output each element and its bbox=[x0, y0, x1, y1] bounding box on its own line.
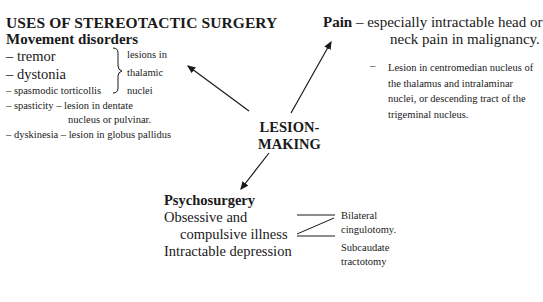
movement-spasticity-1: – spasticity – lesion in dentate bbox=[6, 100, 133, 111]
brace-note-3: nuclei bbox=[127, 85, 153, 96]
pain-heading: Pain bbox=[323, 14, 352, 30]
movement-spasticity-2: nucleus or pulvinar. bbox=[68, 114, 151, 125]
diagram-title: USES OF STEREOTACTIC SURGERY bbox=[6, 14, 277, 32]
brace-note-2: thalamic bbox=[127, 67, 163, 78]
brace-note-1: lesions in bbox=[127, 49, 167, 60]
z-line-diagonal bbox=[297, 218, 334, 234]
pain-desc-2: neck pain in malignancy. bbox=[390, 31, 540, 48]
movement-heading: Movement disorders bbox=[6, 31, 138, 48]
pain-desc-1: especially intractable head or bbox=[367, 14, 542, 30]
pain-line-1: Pain – especially intractable head or bbox=[323, 14, 543, 31]
psy-line-1: Obsessive and bbox=[164, 209, 247, 226]
treatment-tractotomy-2: tractotomy bbox=[341, 256, 387, 267]
treatment-tractotomy-1: Subcaudate bbox=[341, 242, 389, 253]
psy-line-2: compulsive illness bbox=[180, 226, 288, 243]
pain-dash: – bbox=[356, 14, 364, 30]
center-line-1: LESION- bbox=[258, 119, 321, 136]
movement-item-tremor: – tremor bbox=[6, 48, 56, 65]
psy-line-3: Intractable depression bbox=[164, 243, 292, 260]
arrow-to-movement bbox=[188, 66, 249, 111]
center-line-2: MAKING bbox=[258, 136, 321, 153]
movement-dyskinesia: – dyskinesia – lesion in globus pallidus bbox=[6, 129, 171, 140]
arrow-to-pain bbox=[291, 42, 331, 113]
treatment-cingulotomy-1: Bilateral bbox=[341, 210, 377, 221]
arrow-to-psychosurgery bbox=[241, 153, 269, 189]
psychosurgery-heading: Psychosurgery bbox=[164, 192, 255, 209]
treatment-cingulotomy-2: cingulotomy. bbox=[341, 224, 396, 235]
pain-detail-dash: – bbox=[370, 60, 375, 71]
movement-item-dystonia: – dystonia bbox=[6, 66, 66, 83]
brace bbox=[113, 48, 122, 93]
lesion-making-center: LESION- MAKING bbox=[258, 119, 321, 153]
pain-detail: Lesion in centromedian nucleus of the th… bbox=[388, 60, 538, 122]
movement-item-torticollis: – spasmodic torticollis bbox=[6, 85, 101, 96]
